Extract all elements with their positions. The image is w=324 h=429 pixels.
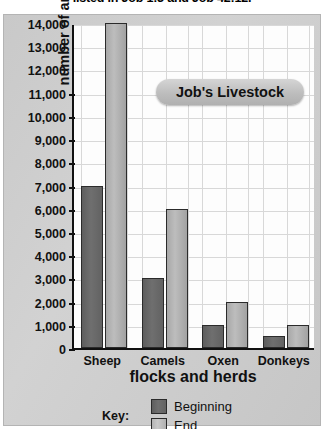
page-headline-text: listed in Job 1:3 and Job 42:12. <box>0 0 324 5</box>
bar-oxen-beginning <box>202 325 224 348</box>
legend-item: End <box>151 418 232 429</box>
y-axis-tick-label: 10,000 <box>4 111 66 125</box>
x-axis-label-oxen: Oxen <box>208 354 239 368</box>
legend-label-end: End <box>174 418 197 429</box>
y-axis-tick-label: 0 <box>4 343 66 357</box>
y-axis-tick <box>69 256 75 258</box>
legend-items: BeginningEnd <box>151 399 232 429</box>
y-axis-tick <box>69 303 75 305</box>
bar-sheep-end <box>105 23 127 348</box>
gridline-vertical <box>188 25 189 348</box>
plot-area-wrapper: number of animals 01,0002,0003,0004,0005… <box>72 25 314 350</box>
y-axis-tick-label: 4,000 <box>4 250 66 264</box>
x-axis-title: flocks and herds <box>72 368 314 386</box>
y-axis-tick-label: 1,000 <box>4 320 66 334</box>
y-axis-tick-label: 12,000 <box>4 64 66 78</box>
x-axis-label-camels: Camels <box>141 354 185 368</box>
chart-figure: listed in Job 1:3 and Job 42:12. number … <box>0 0 324 429</box>
y-axis-tick-label: 11,000 <box>4 88 66 102</box>
y-axis-tick-label: 5,000 <box>4 227 66 241</box>
y-axis-tick <box>69 233 75 235</box>
legend-label-beginning: Beginning <box>174 399 232 414</box>
legend-swatch-end <box>151 418 167 429</box>
y-axis-tick <box>69 326 75 328</box>
x-axis-label-sheep: Sheep <box>83 354 121 368</box>
y-axis-tick-label: 14,000 <box>4 18 66 32</box>
y-axis-tick-label: 8,000 <box>4 157 66 171</box>
y-axis-tick <box>69 187 75 189</box>
y-axis-tick <box>69 210 75 212</box>
gridline-vertical <box>248 25 249 348</box>
bar-donkeys-end <box>287 325 309 348</box>
y-axis-tick-label: 13,000 <box>4 41 66 55</box>
bar-sheep-beginning <box>81 186 103 349</box>
gridline-vertical <box>309 25 310 348</box>
y-axis-tick-label: 3,000 <box>4 273 66 287</box>
y-axis-tick <box>69 94 75 96</box>
y-axis-tick-label: 6,000 <box>4 204 66 218</box>
legend-title: Key: <box>102 409 129 423</box>
bar-camels-end <box>166 209 188 348</box>
y-axis-tick-label: 9,000 <box>4 134 66 148</box>
bar-donkeys-beginning <box>263 336 285 348</box>
y-axis-tick <box>69 349 75 351</box>
y-axis-tick <box>69 163 75 165</box>
chart-card: number of animals 01,0002,0003,0004,0005… <box>3 14 321 426</box>
bar-camels-beginning <box>142 278 164 348</box>
legend-swatch-beginning <box>151 399 167 414</box>
chart-title-badge: Job's Livestock <box>156 79 304 105</box>
gridline-vertical <box>287 25 288 348</box>
y-axis-tick <box>69 117 75 119</box>
legend-item: Beginning <box>151 399 232 414</box>
x-axis-label-donkeys: Donkeys <box>258 354 310 368</box>
gridline-vertical <box>263 25 264 348</box>
y-axis-tick-label: 2,000 <box>4 297 66 311</box>
plot-area <box>72 25 314 350</box>
y-axis-tick-label: 7,000 <box>4 181 66 195</box>
bar-oxen-end <box>226 302 248 348</box>
y-axis-tick <box>69 140 75 142</box>
y-axis-tick <box>69 279 75 281</box>
chart-legend: Key: BeginningEnd <box>102 392 292 429</box>
gridline-vertical <box>202 25 203 348</box>
gridline-vertical <box>226 25 227 348</box>
